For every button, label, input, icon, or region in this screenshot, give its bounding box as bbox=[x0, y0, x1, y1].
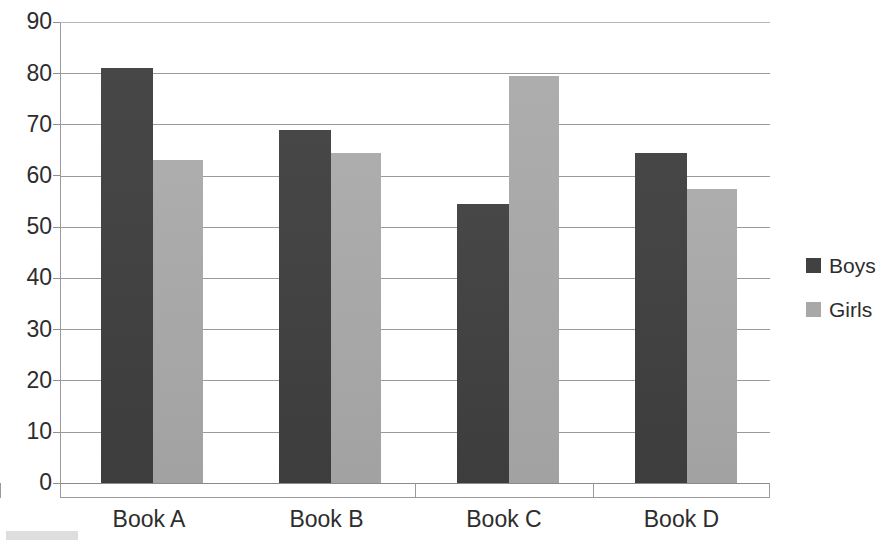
x-tick-mark-1 bbox=[0, 483, 1, 498]
legend-label-boys: Boys bbox=[829, 255, 876, 276]
x-tick-label-book-a: Book A bbox=[60, 506, 238, 532]
bar-girls-book-a bbox=[153, 160, 203, 483]
y-tick-label-60: 60 bbox=[4, 164, 52, 187]
bar-boys-book-b bbox=[279, 130, 331, 483]
y-tick-label-40: 40 bbox=[4, 266, 52, 289]
bar-boys-book-a bbox=[101, 68, 153, 483]
bar-boys-book-c bbox=[457, 204, 509, 483]
dark-gray-swatch-icon bbox=[806, 258, 821, 273]
gridline-80 bbox=[60, 73, 770, 74]
bar-girls-book-b bbox=[331, 153, 381, 483]
chart-legend: Boys Girls bbox=[806, 243, 884, 331]
scan-artifact bbox=[6, 531, 78, 540]
bar-girls-book-c bbox=[509, 76, 559, 483]
y-tick-label-30: 30 bbox=[4, 318, 52, 341]
bar-girls-book-d bbox=[687, 189, 737, 484]
x-tick-mark-4 bbox=[769, 483, 770, 498]
y-tick-label-50: 50 bbox=[4, 215, 52, 238]
gridline-90 bbox=[60, 22, 770, 23]
x-tick-label-book-c: Book C bbox=[415, 506, 593, 532]
grouped-bar-chart: 90 80 70 60 50 40 30 20 10 0 bbox=[0, 0, 884, 553]
y-tick-label-0: 0 bbox=[4, 471, 52, 494]
y-tick-label-70: 70 bbox=[4, 113, 52, 136]
bar-boys-book-d bbox=[635, 153, 687, 483]
x-tick-mark-3 bbox=[593, 483, 594, 498]
y-tick-label-10: 10 bbox=[4, 420, 52, 443]
gridline-70 bbox=[60, 124, 770, 125]
plot-area bbox=[60, 22, 770, 483]
y-tick-label-80: 80 bbox=[4, 62, 52, 85]
x-tick-label-book-b: Book B bbox=[238, 506, 415, 532]
y-axis-labels: 90 80 70 60 50 40 30 20 10 0 bbox=[0, 0, 52, 553]
x-tick-mark-0 bbox=[60, 483, 61, 498]
y-tick-label-90: 90 bbox=[4, 10, 52, 33]
legend-label-girls: Girls bbox=[829, 299, 872, 320]
x-tick-mark-2 bbox=[415, 483, 416, 498]
y-tick-label-20: 20 bbox=[4, 369, 52, 392]
legend-item-girls: Girls bbox=[806, 287, 884, 331]
legend-item-boys: Boys bbox=[806, 243, 884, 287]
x-tick-label-book-d: Book D bbox=[593, 506, 770, 532]
light-gray-swatch-icon bbox=[806, 302, 821, 317]
